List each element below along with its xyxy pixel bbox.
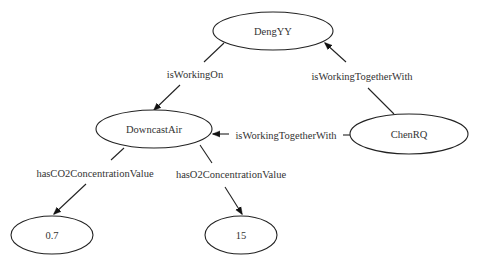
node-label: 15 (236, 230, 247, 241)
edge-arrow-segment (225, 187, 242, 214)
edge-label-hasco2concentrationvalue: hasCO2ConcentrationValue (36, 168, 154, 179)
node-downcastair: DowncastAir (96, 110, 212, 148)
edge-line-segment (200, 145, 212, 163)
edge-label-isworkingtogetherwith: isWorkingTogetherWith (311, 71, 413, 82)
edge-hasco2concentrationvalue: hasCO2ConcentrationValue (36, 148, 154, 214)
edge-haso2concentrationvalue: hasO2ConcentrationValue (176, 145, 287, 214)
node-value-co2: 0.7 (11, 216, 93, 254)
node-value-o2: 15 (205, 216, 277, 254)
node-dengyy: DengYY (213, 12, 333, 50)
edge-chenrq-dengyy: isWorkingTogetherWith (311, 43, 413, 114)
edge-label-isworkingon: isWorkingOn (167, 69, 224, 80)
node-label: ChenRQ (391, 129, 428, 140)
edge-label-haso2concentrationvalue: hasO2ConcentrationValue (176, 169, 287, 180)
node-label: DowncastAir (126, 124, 182, 135)
edge-line-segment (368, 88, 394, 114)
node-chenrq: ChenRQ (350, 114, 468, 154)
edge-isworkingon: isWorkingOn (154, 43, 224, 110)
knowledge-graph-diagram: isWorkingOn isWorkingTogetherWith isWork… (0, 0, 478, 265)
edge-arrow-segment (154, 85, 180, 110)
edge-arrow-segment (325, 43, 346, 62)
edge-line-segment (204, 43, 224, 62)
edge-line-segment (111, 148, 124, 160)
edge-arrow-segment (54, 184, 86, 214)
edge-chenrq-downcastair: isWorkingTogetherWith (213, 130, 350, 141)
node-label: 0.7 (45, 230, 58, 241)
edge-label-isworkingtogetherwith: isWorkingTogetherWith (235, 130, 337, 141)
node-label: DengYY (254, 26, 292, 37)
